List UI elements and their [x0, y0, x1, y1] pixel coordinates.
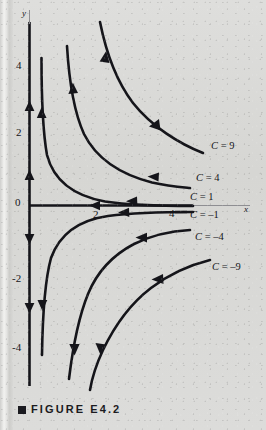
direction-field-plot — [0, 0, 266, 430]
figure-caption-text: FIGURE E4.2 — [31, 403, 121, 415]
curve-label-c1: C = 1 — [190, 192, 213, 203]
figure-panel: y x 4 2 0 -2 -4 2 4 C = 9 C = 4 C = 1 C … — [0, 0, 266, 430]
curve-cm4-arrow-2 — [69, 344, 79, 356]
curve-cm4 — [69, 230, 190, 379]
curve-c1-arrow-1 — [37, 107, 47, 118]
curve-c4-arrow-2 — [148, 172, 160, 181]
curve-c4 — [67, 46, 190, 188]
y-axis-arrow-up-1 — [25, 101, 35, 112]
x-tick-4: 4 — [169, 208, 175, 219]
y-tick-2: 2 — [16, 127, 22, 138]
curve-cm9 — [90, 260, 210, 390]
y-tick-neg4: -4 — [12, 342, 21, 353]
y-axis-label: y — [22, 9, 26, 18]
curve-c1 — [42, 58, 194, 206]
y-tick-neg2: -2 — [12, 273, 21, 284]
curve-label-cm9: C = –9 — [212, 262, 241, 273]
origin-label: 0 — [15, 197, 21, 208]
y-axis-arrow-up-2 — [25, 170, 35, 181]
caption-square-icon — [18, 406, 26, 414]
curve-label-c9: C = 9 — [211, 141, 234, 152]
x-tick-2: 2 — [93, 209, 99, 220]
y-axis-arrow-down-2 — [25, 303, 35, 314]
curve-label-cm1: C = –1 — [190, 210, 219, 221]
y-axis-arrow-down-1 — [25, 234, 35, 245]
curve-label-cm4: C = –4 — [195, 232, 224, 243]
x-axis-label: x — [244, 205, 248, 214]
figure-caption: FIGURE E4.2 — [18, 403, 121, 415]
curve-label-c4: C = 4 — [196, 173, 219, 184]
y-tick-4: 4 — [16, 60, 22, 71]
curve-cm1-arrow-2 — [38, 300, 48, 311]
curve-c9 — [100, 22, 203, 153]
